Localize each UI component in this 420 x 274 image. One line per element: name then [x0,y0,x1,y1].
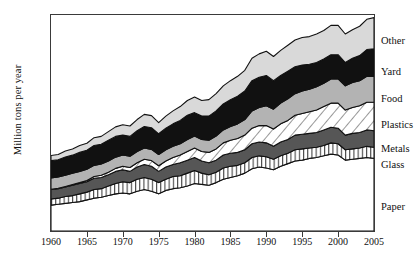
chart-figure: Million tons per year 050100150200250 19… [0,0,420,274]
legend-label-glass: Glass [381,159,404,170]
x-tick-label-1990: 1990 [246,236,286,247]
x-tick-mark-1980 [195,232,196,237]
x-tick-mark-2000 [338,232,339,237]
legend-label-plastics: Plastics [381,119,413,130]
x-tick-label-1985: 1985 [210,236,250,247]
x-tick-mark-1970 [123,232,124,237]
legend-label-paper: Paper [381,201,405,212]
x-tick-label-1960: 1960 [31,236,71,247]
x-tick-mark-1990 [266,232,267,237]
x-tick-label-2005: 2005 [354,236,394,247]
y-axis-title: Million tons per year [12,30,26,190]
legend-label-yard: Yard [381,66,401,77]
x-tick-mark-1985 [230,232,231,237]
x-tick-mark-1975 [159,232,160,237]
x-tick-label-1995: 1995 [282,236,322,247]
legend-label-other: Other [381,35,405,46]
x-tick-label-1965: 1965 [67,236,107,247]
stacked-area-plot [51,15,374,231]
legend-label-food: Food [381,93,403,104]
plot-area [50,14,375,232]
x-tick-label-1970: 1970 [103,236,143,247]
area-bands [51,18,374,231]
x-tick-mark-1995 [302,232,303,237]
x-tick-mark-1965 [87,232,88,237]
x-tick-label-1975: 1975 [139,236,179,247]
x-tick-label-2000: 2000 [318,236,358,247]
x-tick-label-1980: 1980 [175,236,215,247]
legend-label-metals: Metals [381,143,410,154]
